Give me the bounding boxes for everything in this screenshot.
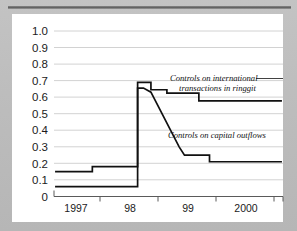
axes bbox=[54, 191, 283, 202]
chart-screenshot: 1.0 0.9 0.8 0.7 0.6 0.5 0.4 0.3 0.2 0.1 … bbox=[0, 0, 297, 231]
y-axis-labels: 1.0 0.9 0.8 0.7 0.6 0.5 0.4 0.3 0.2 0.1 … bbox=[32, 25, 49, 202]
gridlines bbox=[54, 31, 283, 180]
annotation-ringgit-line1: Controls on international bbox=[170, 73, 258, 83]
y-tick-label: 0.2 bbox=[32, 158, 48, 170]
y-tick-label: 0.3 bbox=[32, 141, 48, 153]
y-tick-label: 0.9 bbox=[32, 42, 48, 54]
annotation-capital-outflows: Controls on capital outflows bbox=[168, 130, 266, 140]
x-tick-label-98: 98 bbox=[124, 202, 136, 214]
annotation-ringgit-line2: transactions in ringgit bbox=[179, 83, 256, 93]
y-tick-label: 0.5 bbox=[32, 108, 48, 120]
annotation-capital-outflows-line1: Controls on capital outflows bbox=[168, 130, 266, 140]
x-tick-label-2000: 2000 bbox=[234, 202, 258, 214]
x-axis-labels: 1997 98 99 2000 bbox=[64, 202, 258, 214]
annotation-ringgit: Controls on international transactions i… bbox=[170, 73, 258, 93]
y-tick-label: 0.7 bbox=[32, 75, 48, 87]
y-tick-label: 0.1 bbox=[32, 174, 48, 186]
y-tick-label: 0.6 bbox=[32, 91, 48, 103]
y-tick-label: 0 bbox=[42, 191, 48, 203]
y-tick-label: 1.0 bbox=[32, 25, 48, 37]
x-tick-label-1997: 1997 bbox=[64, 202, 88, 214]
y-tick-label: 0.4 bbox=[32, 124, 49, 136]
x-tick-label-99: 99 bbox=[182, 202, 194, 214]
line-chart: 1.0 0.9 0.8 0.7 0.6 0.5 0.4 0.3 0.2 0.1 … bbox=[0, 0, 297, 231]
y-tick-label: 0.8 bbox=[32, 58, 48, 70]
